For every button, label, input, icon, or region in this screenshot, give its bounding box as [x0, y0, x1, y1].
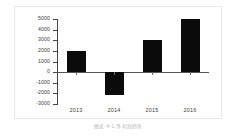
bar [105, 72, 124, 95]
y-axis-tick-label: -1000 [36, 80, 50, 85]
x-axis-tick [114, 72, 115, 75]
y-axis-tick [53, 62, 58, 63]
y-axis-tick-label: 2000 [38, 48, 50, 53]
x-axis-tick-label: 2013 [70, 108, 83, 113]
y-axis-tick [53, 93, 58, 94]
y-axis-tick-label: 1000 [38, 59, 50, 64]
x-axis-tick-label: 2015 [146, 108, 159, 113]
y-axis-tick-label: 4000 [38, 27, 50, 32]
chart-card: 500040003000200010000-1000-2000-3000 201… [14, 6, 222, 119]
bar [143, 40, 162, 72]
figure-container: 500040003000200010000-1000-2000-3000 201… [0, 0, 237, 140]
y-axis-tick-label: 3000 [38, 38, 50, 43]
bar [181, 19, 200, 72]
y-axis-tick-label: 5000 [38, 16, 50, 21]
x-axis-tick [76, 72, 77, 75]
y-axis-tick-label: -2000 [36, 91, 50, 96]
y-axis-tick-label: -3000 [36, 101, 50, 106]
y-axis-tick [53, 30, 58, 31]
bar [67, 51, 86, 72]
figure-caption: 图表 4-1 净利润趋势 [0, 124, 237, 129]
y-axis-tick [53, 51, 58, 52]
y-axis-tick [53, 104, 58, 105]
y-axis-tick [53, 40, 58, 41]
x-axis-tick-label: 2016 [184, 108, 197, 113]
y-axis-tick [53, 19, 58, 20]
x-axis-tick [152, 72, 153, 75]
zero-baseline [57, 72, 209, 73]
y-axis-tick-label: 0 [47, 70, 50, 75]
x-axis-tick [190, 72, 191, 75]
y-axis-tick [53, 83, 58, 84]
x-axis-tick-label: 2014 [108, 108, 121, 113]
